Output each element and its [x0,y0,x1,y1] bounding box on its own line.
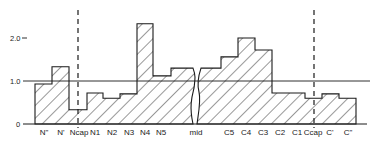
x-category-label: C5 [224,128,235,137]
x-category-label: N" [40,128,49,137]
x-category-label: mid [190,128,203,137]
y-tick-labels: 01.02.0 [10,34,20,129]
x-category-label: C4 [241,128,252,137]
hatched-area [35,24,356,124]
x-category-label: C' [326,128,334,137]
x-category-label: N2 [107,128,118,137]
x-category-label: C3 [258,128,269,137]
y-tick-label: 0 [16,120,20,129]
y-tick-label: 2.0 [10,34,20,43]
x-category-label: C1 [292,128,303,137]
x-category-label: C2 [275,128,286,137]
chart-canvas: N"N'NcapN1N2N3N4N5midC5C4C3C2C1CcapC'C" … [0,0,384,145]
x-category-label: N1 [90,128,101,137]
left-segment [35,24,195,124]
x-category-label: C" [344,128,353,137]
category-labels: N"N'NcapN1N2N3N4N5midC5C4C3C2C1CcapC'C" [40,128,353,137]
x-category-label: N5 [156,128,167,137]
x-category-label: N3 [124,128,135,137]
x-category-label: Ccap [304,128,323,137]
x-category-label: Ncap [70,128,89,137]
x-category-label: N4 [140,128,151,137]
x-category-label: N' [57,128,65,137]
y-tick-label: 1.0 [10,77,20,86]
step-bar-chart: N"N'NcapN1N2N3N4N5midC5C4C3C2C1CcapC'C" … [0,0,384,145]
